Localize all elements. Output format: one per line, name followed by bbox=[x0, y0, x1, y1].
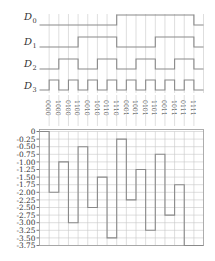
signal-label-d3: D3 bbox=[23, 80, 37, 94]
signal-label-d2: D2 bbox=[23, 58, 37, 72]
code-label: 0111 bbox=[180, 100, 187, 116]
code-label: 1100 bbox=[74, 100, 81, 116]
code-label: 1010 bbox=[94, 100, 101, 116]
code-label: 1111 bbox=[190, 100, 197, 116]
code-label: 1001 bbox=[132, 100, 139, 116]
waveform-d1 bbox=[40, 37, 204, 47]
waveform-d0 bbox=[40, 15, 204, 25]
code-label: 0010 bbox=[84, 100, 91, 116]
code-label: 1101 bbox=[151, 100, 158, 116]
waveform-d2 bbox=[40, 59, 204, 69]
binary-code-labels: 0000100001001100001010100110111000011001… bbox=[45, 95, 197, 126]
analog-output-plot: 0-0.25-0.50-0.75-1.00-1.25-1.50-1.75-2.0… bbox=[17, 127, 204, 250]
code-label: 0011 bbox=[161, 100, 168, 116]
dac-timing-diagram: D0D1D2D3 0000100001001100001010100110111… bbox=[0, 0, 215, 261]
waveform-d3 bbox=[40, 80, 204, 90]
signal-label-d1: D1 bbox=[23, 36, 37, 50]
code-label: 0110 bbox=[103, 100, 110, 116]
code-label: 1000 bbox=[55, 100, 62, 116]
y-tick-label: -3.75 bbox=[17, 241, 36, 250]
code-label: 0000 bbox=[45, 100, 52, 116]
signal-label-d0: D0 bbox=[23, 11, 37, 25]
code-label: 1110 bbox=[113, 100, 120, 116]
timing-waveforms: D0D1D2D3 bbox=[23, 11, 204, 94]
code-label: 0101 bbox=[142, 100, 149, 116]
code-label: 0001 bbox=[123, 100, 130, 116]
code-label: 1011 bbox=[171, 100, 178, 116]
code-label: 0100 bbox=[65, 100, 72, 116]
analog-output-waveform bbox=[40, 132, 204, 246]
